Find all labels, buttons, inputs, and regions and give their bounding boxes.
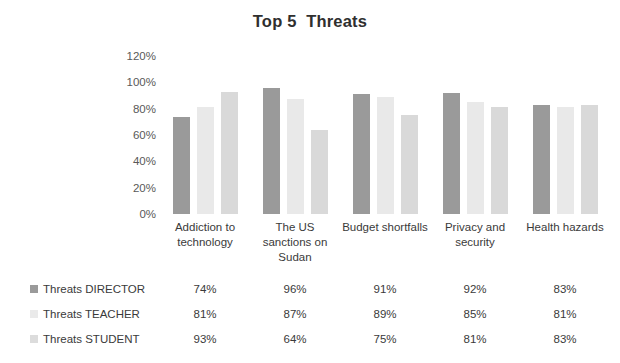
bar[interactable] xyxy=(491,107,508,214)
bar[interactable] xyxy=(401,115,418,214)
bar[interactable] xyxy=(581,105,598,214)
bar-groups xyxy=(160,56,610,214)
table-cell-value: 83% xyxy=(520,333,610,345)
bar-group xyxy=(340,56,430,214)
chart-title: Top 5 Threats xyxy=(0,12,620,31)
table-cell-value: 81% xyxy=(520,308,610,320)
bar[interactable] xyxy=(377,97,394,214)
legend-item[interactable]: Threats STUDENT xyxy=(0,333,160,345)
bar[interactable] xyxy=(263,88,280,214)
legend-item[interactable]: Threats TEACHER xyxy=(0,308,160,320)
plot-area xyxy=(160,56,610,214)
bar-group xyxy=(160,56,250,214)
table-value-cells: 74%96%91%92%83% xyxy=(160,283,620,295)
x-axis-category-label: Budget shortfalls xyxy=(340,220,430,270)
data-table-legend: Threats DIRECTOR74%96%91%92%83%Threats T… xyxy=(0,276,620,356)
bar-group xyxy=(250,56,340,214)
table-cell-value: 85% xyxy=(430,308,520,320)
y-axis-tick-label: 0% xyxy=(100,208,156,220)
legend-swatch-icon xyxy=(30,335,38,343)
x-axis-category-labels: Addiction to technologyThe US sanctions … xyxy=(160,220,610,270)
table-cell-value: 83% xyxy=(520,283,610,295)
x-axis-category-label: The US sanctions on Sudan xyxy=(250,220,340,270)
y-axis-tick-label: 100% xyxy=(100,76,156,88)
bar[interactable] xyxy=(287,99,304,214)
y-axis-tick-label: 20% xyxy=(100,182,156,194)
legend-item[interactable]: Threats DIRECTOR xyxy=(0,283,160,295)
x-axis-category-label: Privacy and security xyxy=(430,220,520,270)
table-cell-value: 92% xyxy=(430,283,520,295)
table-cell-value: 75% xyxy=(340,333,430,345)
bar[interactable] xyxy=(557,107,574,214)
bar[interactable] xyxy=(467,102,484,214)
x-axis-category-label: Health hazards xyxy=(520,220,610,270)
table-cell-value: 91% xyxy=(340,283,430,295)
y-axis-tick-label: 40% xyxy=(100,155,156,167)
legend-label: Threats STUDENT xyxy=(43,333,140,345)
x-axis-category-label: Addiction to technology xyxy=(160,220,250,270)
chart-container: Top 5 Threats 120%100%80%60%40%20%0% Add… xyxy=(0,0,620,363)
table-value-cells: 81%87%89%85%81% xyxy=(160,308,620,320)
y-axis-tick-label: 120% xyxy=(100,50,156,62)
table-cell-value: 87% xyxy=(250,308,340,320)
table-cell-value: 93% xyxy=(160,333,250,345)
bar[interactable] xyxy=(221,92,238,214)
table-row: Threats TEACHER81%87%89%85%81% xyxy=(0,301,620,326)
table-cell-value: 81% xyxy=(160,308,250,320)
legend-label: Threats TEACHER xyxy=(43,308,140,320)
bar-group xyxy=(430,56,520,214)
legend-swatch-icon xyxy=(30,285,38,293)
bar[interactable] xyxy=(311,130,328,214)
legend-swatch-icon xyxy=(30,310,38,318)
table-row: Threats DIRECTOR74%96%91%92%83% xyxy=(0,276,620,301)
bar-group xyxy=(520,56,610,214)
y-axis: 120%100%80%60%40%20%0% xyxy=(100,56,156,214)
bar[interactable] xyxy=(443,93,460,214)
bar[interactable] xyxy=(353,94,370,214)
table-cell-value: 64% xyxy=(250,333,340,345)
y-axis-tick-label: 80% xyxy=(100,103,156,115)
table-row: Threats STUDENT93%64%75%81%83% xyxy=(0,326,620,351)
legend-label: Threats DIRECTOR xyxy=(43,283,145,295)
table-cell-value: 74% xyxy=(160,283,250,295)
table-value-cells: 93%64%75%81%83% xyxy=(160,333,620,345)
table-cell-value: 96% xyxy=(250,283,340,295)
table-cell-value: 81% xyxy=(430,333,520,345)
table-cell-value: 89% xyxy=(340,308,430,320)
y-axis-tick-label: 60% xyxy=(100,129,156,141)
bar[interactable] xyxy=(173,117,190,214)
bar[interactable] xyxy=(197,107,214,214)
bar[interactable] xyxy=(533,105,550,214)
